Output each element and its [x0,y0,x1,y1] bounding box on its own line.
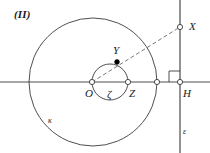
point-marker-y [115,60,120,65]
label-circle-kappa: κ [48,117,52,125]
label-point-y: Y [113,45,119,56]
label-circle-zeta: ζ [107,89,111,100]
point-marker-h [177,79,182,84]
panel-label: (II) [14,9,31,20]
point-marker-kappa-right [154,79,159,84]
geometry-figure: (II) X Y O ζ Z H ε κ [0,0,210,153]
point-marker-x [177,24,182,29]
point-marker-o [89,79,94,84]
ray-o-y-x [92,27,180,82]
label-point-x: X [189,21,196,32]
label-point-o: O [85,88,93,99]
label-line-epsilon: ε [183,128,186,136]
label-point-z: Z [129,88,135,99]
label-point-h: H [183,88,191,99]
figure-canvas [0,0,210,153]
point-marker-z [125,79,130,84]
